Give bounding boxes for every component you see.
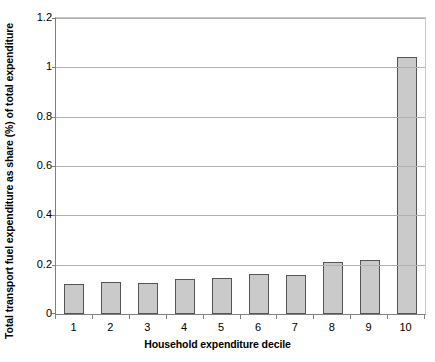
y-axis-tick-labels: 00.20.40.60.811.2 — [18, 0, 52, 362]
x-axis-tick-mark — [350, 314, 351, 319]
x-axis-tick-mark — [166, 314, 167, 319]
bar — [212, 278, 232, 314]
y-axis-tick-label: 0 — [18, 308, 52, 319]
bar — [360, 260, 380, 314]
gridline — [56, 117, 425, 118]
bar — [397, 57, 417, 314]
bar — [101, 282, 121, 314]
x-axis-tick-label: 10 — [399, 320, 411, 334]
x-axis-tick-mark — [424, 314, 425, 319]
x-axis-tick-label: 2 — [107, 320, 113, 334]
x-axis-tick-mark — [129, 314, 130, 319]
x-axis-tick-mark — [203, 314, 204, 319]
gridline — [56, 166, 425, 167]
bar — [175, 279, 195, 314]
y-axis-title: Total transport fuel expenditure as shar… — [0, 0, 18, 362]
x-axis-tick-label: 6 — [255, 320, 261, 334]
x-axis-tick-label: 3 — [144, 320, 150, 334]
x-axis-tick-labels: 12345678910 — [55, 320, 425, 336]
y-axis-tick-label: 0.6 — [18, 160, 52, 171]
x-axis-tick-mark — [276, 314, 277, 319]
gridline — [56, 215, 425, 216]
bar — [323, 262, 343, 314]
gridline — [56, 67, 425, 68]
x-axis-tick-label: 4 — [181, 320, 187, 334]
bar — [138, 283, 158, 314]
bar — [286, 275, 306, 314]
gridline — [56, 18, 425, 19]
x-axis-tick-mark — [92, 314, 93, 319]
x-axis-tick-label: 5 — [218, 320, 224, 334]
x-axis-tick-label: 1 — [70, 320, 76, 334]
x-axis-title: Household expenditure decile — [0, 338, 435, 350]
y-axis-tick-label: 1 — [18, 61, 52, 72]
y-axis-tick-label: 0.8 — [18, 110, 52, 121]
x-axis-tick-label: 9 — [366, 320, 372, 334]
x-axis-tick-label: 7 — [292, 320, 298, 334]
x-axis-tick-mark — [240, 314, 241, 319]
x-axis-tick-mark — [387, 314, 388, 319]
gridline — [56, 265, 425, 266]
x-axis-tick-marks — [55, 314, 425, 319]
bar — [249, 274, 269, 314]
bar-chart: Total transport fuel expenditure as shar… — [0, 0, 435, 362]
bar — [64, 284, 84, 314]
x-axis-tick-mark — [55, 314, 56, 319]
y-axis-tick-label: 1.2 — [18, 12, 52, 23]
y-axis-tick-label: 0.4 — [18, 209, 52, 220]
x-axis-tick-mark — [313, 314, 314, 319]
x-axis-tick-label: 8 — [329, 320, 335, 334]
plot-area — [55, 17, 426, 315]
y-axis-tick-label: 0.2 — [18, 258, 52, 269]
